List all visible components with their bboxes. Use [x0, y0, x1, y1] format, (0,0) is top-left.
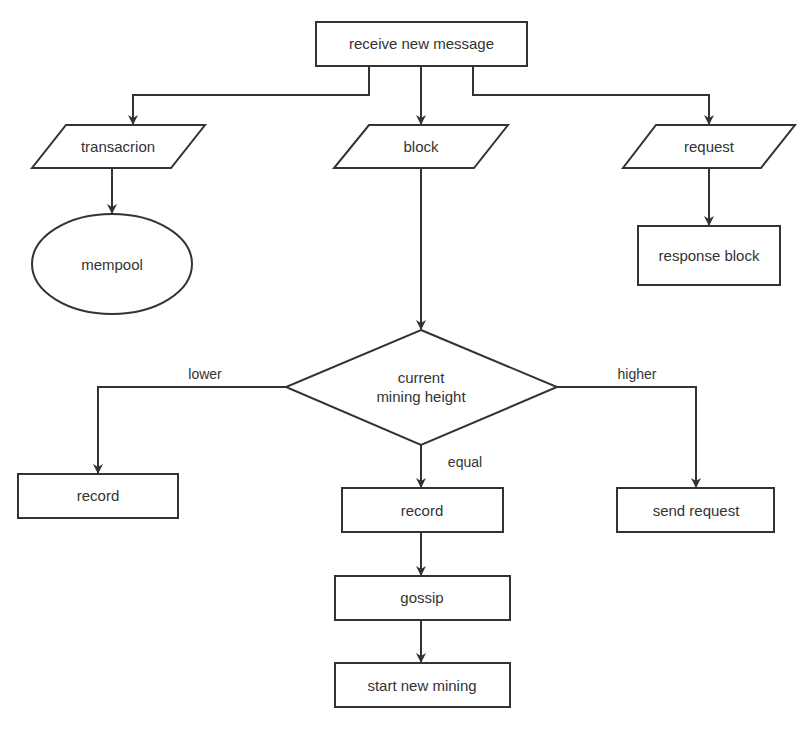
node-label: record	[401, 502, 444, 519]
node-response-block: response block	[638, 226, 780, 285]
node-label: send request	[653, 502, 741, 519]
node-label: request	[684, 138, 735, 155]
node-mempool: mempool	[32, 214, 192, 314]
node-transaction: transacrion	[32, 125, 205, 168]
node-receive-new-message: receive new message	[316, 22, 527, 66]
node-gossip: gossip	[335, 576, 510, 620]
node-label: record	[77, 487, 120, 504]
node-record-lower: record	[18, 474, 178, 518]
node-label: mempool	[81, 256, 143, 273]
node-label: block	[403, 138, 439, 155]
edge-receive-to-transaction	[133, 66, 369, 124]
node-label: receive new message	[349, 35, 494, 52]
node-label: response block	[659, 247, 760, 264]
node-send-request: send request	[617, 488, 774, 532]
node-block: block	[334, 125, 508, 168]
node-label-line2: mining height	[376, 388, 466, 405]
node-label: start new mining	[367, 677, 476, 694]
edge-label-lower: lower	[188, 366, 222, 382]
node-label-line1: current	[398, 369, 446, 386]
flowchart-canvas: lower equal higher receive new message t…	[0, 0, 805, 729]
node-record-equal: record	[342, 488, 503, 532]
edge-label-equal: equal	[448, 454, 482, 470]
node-label: transacrion	[81, 138, 155, 155]
edge-receive-to-request	[473, 66, 709, 124]
node-label: gossip	[400, 589, 443, 606]
node-start-new-mining: start new mining	[335, 663, 510, 707]
edge-label-higher: higher	[618, 366, 657, 382]
edge-decision-higher	[557, 387, 696, 487]
node-request: request	[623, 125, 795, 168]
edge-decision-lower	[98, 387, 286, 473]
node-decision-current-mining-height: current mining height	[286, 330, 557, 445]
